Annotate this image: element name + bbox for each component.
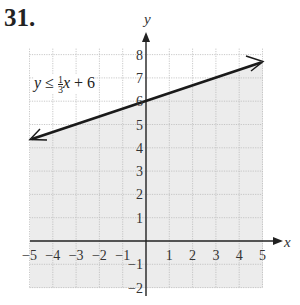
x-axis-arrow-icon bbox=[273, 237, 283, 245]
x-tick-label: −4 bbox=[45, 248, 60, 263]
inequality-rest: + 6 bbox=[74, 74, 95, 91]
x-tick-label: 4 bbox=[236, 248, 243, 263]
x-tick-label: 1 bbox=[166, 248, 173, 263]
inequality-label: y ≤ 13x + 6 bbox=[34, 74, 95, 94]
y-tick-label: −1 bbox=[128, 257, 143, 272]
x-tick-label: −2 bbox=[92, 248, 107, 263]
x-axis-label: x bbox=[283, 234, 291, 250]
inequality-var: x bbox=[63, 74, 70, 91]
y-tick-label: 6 bbox=[136, 94, 143, 109]
x-tick-label: −5 bbox=[22, 248, 37, 263]
y-axis-arrow-icon bbox=[142, 32, 150, 42]
x-tick-label: 2 bbox=[189, 248, 196, 263]
y-tick-label: −2 bbox=[128, 281, 143, 296]
y-tick-label: 2 bbox=[136, 187, 143, 202]
x-tick-label: 3 bbox=[212, 248, 219, 263]
y-tick-label: 3 bbox=[136, 164, 143, 179]
y-tick-label: 4 bbox=[136, 141, 143, 156]
y-axis-label: y bbox=[142, 11, 151, 27]
graph: x y −5−4−3−2−112345−2−112345678 bbox=[0, 0, 300, 305]
y-tick-label: 5 bbox=[136, 118, 143, 133]
y-tick-label: 1 bbox=[136, 211, 143, 226]
inequality-lhs: y bbox=[34, 74, 41, 91]
y-tick-label: 8 bbox=[136, 48, 143, 63]
y-tick-label: 7 bbox=[136, 71, 143, 86]
inequality-operator: ≤ bbox=[45, 74, 54, 91]
x-tick-label: −3 bbox=[69, 248, 84, 263]
x-tick-label: 5 bbox=[259, 248, 266, 263]
